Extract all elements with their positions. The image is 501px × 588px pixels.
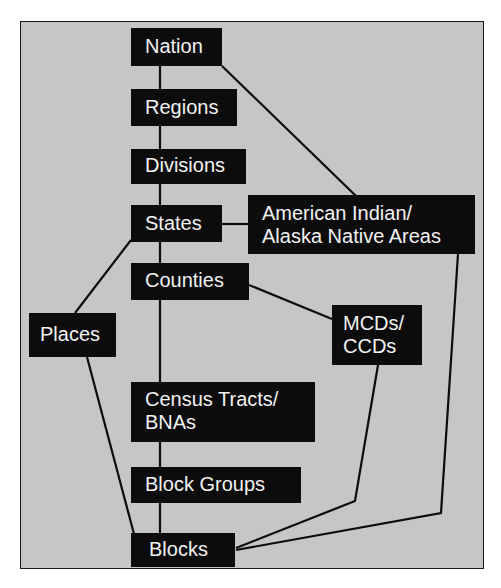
node-label: Blocks (149, 538, 235, 561)
node-census-tracts-bnas: Census Tracts/ BNAs (131, 382, 315, 442)
node-states: States (131, 205, 222, 242)
node-places: Places (29, 313, 116, 357)
node-nation: Nation (131, 28, 222, 66)
node-label-line-1: Census Tracts/ (145, 388, 315, 411)
node-label: Block Groups (145, 473, 301, 496)
node-label-line-2: CCDs (343, 335, 422, 358)
node-label-line-2: BNAs (145, 411, 315, 434)
node-mcds-ccds: MCDs/ CCDs (332, 305, 422, 365)
node-counties: Counties (131, 263, 249, 300)
node-label: Regions (145, 96, 237, 119)
node-american-indian-alaska-native-areas: American Indian/ Alaska Native Areas (248, 195, 475, 254)
node-blocks: Blocks (131, 533, 235, 567)
node-label: Nation (145, 35, 222, 58)
node-label-line-1: American Indian/ (262, 202, 475, 225)
node-label: Places (40, 323, 116, 346)
node-label-line-2: Alaska Native Areas (262, 225, 475, 248)
node-divisions: Divisions (131, 149, 246, 184)
node-label: Counties (145, 269, 249, 292)
node-label-line-1: MCDs/ (343, 312, 422, 335)
node-regions: Regions (131, 89, 237, 126)
node-label: States (145, 212, 222, 235)
node-label: Divisions (145, 154, 246, 177)
node-block-groups: Block Groups (131, 467, 301, 503)
